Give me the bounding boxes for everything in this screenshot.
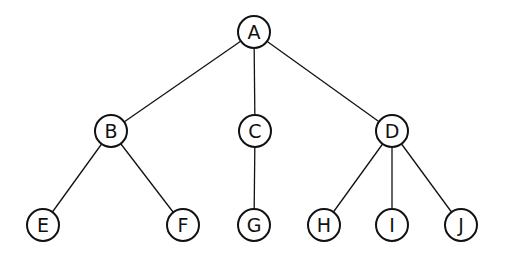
node-D: D <box>375 114 409 148</box>
node-E: E <box>26 208 60 242</box>
node-B: B <box>94 114 128 148</box>
edge-A-D <box>254 32 392 131</box>
node-G: G <box>237 208 271 242</box>
node-I: I <box>375 208 409 242</box>
node-J: J <box>444 208 478 242</box>
tree-diagram: ABCDEFGHIJ <box>0 0 508 254</box>
node-H: H <box>307 208 341 242</box>
edge-A-B <box>111 32 254 131</box>
node-C: C <box>238 114 272 148</box>
node-F: F <box>166 208 200 242</box>
node-A: A <box>237 15 271 49</box>
